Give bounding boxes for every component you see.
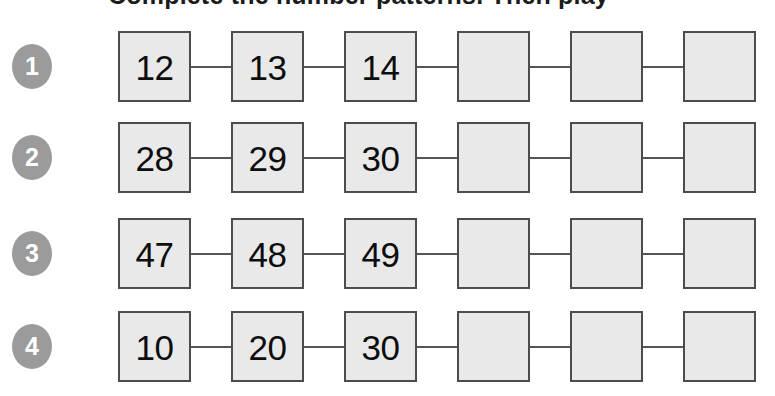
cell-connector — [304, 253, 344, 255]
cell-connector — [530, 253, 570, 255]
cell-connector — [643, 346, 683, 348]
cell-value: 47 — [120, 236, 189, 271]
sequence-row: 1 12 13 14 — [0, 31, 775, 103]
number-cell[interactable]: 10 — [118, 311, 191, 382]
number-cell-empty[interactable] — [683, 31, 756, 102]
number-cell-empty[interactable] — [570, 122, 643, 193]
cell-value: 29 — [233, 140, 302, 175]
row-number-label: 2 — [25, 145, 39, 170]
number-cell-empty[interactable] — [570, 218, 643, 289]
number-cell[interactable]: 29 — [231, 122, 304, 193]
cell-connector — [643, 66, 683, 68]
row-number-label: 1 — [25, 54, 39, 79]
number-cell[interactable]: 28 — [118, 122, 191, 193]
number-cell[interactable]: 48 — [231, 218, 304, 289]
cell-connector — [530, 346, 570, 348]
sequence-row: 3 47 48 49 — [0, 218, 775, 290]
cell-connector — [417, 66, 457, 68]
cell-value: 13 — [233, 49, 302, 84]
number-cell[interactable]: 13 — [231, 31, 304, 102]
cell-connector — [417, 253, 457, 255]
cell-value: 14 — [346, 49, 415, 84]
number-cell-empty[interactable] — [570, 311, 643, 382]
row-number-badge: 2 — [12, 135, 52, 180]
cell-value: 48 — [233, 236, 302, 271]
number-cell-empty[interactable] — [457, 122, 530, 193]
cell-value: 30 — [346, 140, 415, 175]
number-cell-empty[interactable] — [570, 31, 643, 102]
cell-connector — [191, 157, 231, 159]
cell-connector — [191, 66, 231, 68]
cell-value: 10 — [120, 329, 189, 364]
cell-connector — [191, 253, 231, 255]
number-cell[interactable]: 47 — [118, 218, 191, 289]
number-cell-empty[interactable] — [683, 218, 756, 289]
number-cell[interactable]: 49 — [344, 218, 417, 289]
cell-connector — [417, 346, 457, 348]
number-cell[interactable]: 14 — [344, 31, 417, 102]
cell-connector — [304, 346, 344, 348]
row-number-label: 4 — [25, 334, 39, 359]
number-cell[interactable]: 12 — [118, 31, 191, 102]
cell-connector — [530, 157, 570, 159]
row-number-badge: 1 — [12, 44, 52, 89]
cell-connector — [643, 157, 683, 159]
cell-connector — [530, 66, 570, 68]
cell-connector — [417, 157, 457, 159]
cell-value: 49 — [346, 236, 415, 271]
number-cell[interactable]: 30 — [344, 122, 417, 193]
cell-value: 12 — [120, 49, 189, 84]
cell-value: 30 — [346, 329, 415, 364]
number-cell-empty[interactable] — [683, 311, 756, 382]
number-cell[interactable]: 30 — [344, 311, 417, 382]
cell-connector — [643, 253, 683, 255]
row-number-badge: 4 — [12, 324, 52, 369]
sequence-row: 4 10 20 30 — [0, 311, 775, 383]
number-cell-empty[interactable] — [457, 31, 530, 102]
worksheet-page: Complete the number patterns. Then play … — [0, 0, 775, 396]
number-cell-empty[interactable] — [683, 122, 756, 193]
cell-value: 20 — [233, 329, 302, 364]
number-cell-empty[interactable] — [457, 311, 530, 382]
cell-connector — [304, 157, 344, 159]
row-number-label: 3 — [25, 241, 39, 266]
sequence-row: 2 28 29 30 — [0, 122, 775, 194]
number-cell-empty[interactable] — [457, 218, 530, 289]
row-number-badge: 3 — [12, 231, 52, 276]
cell-value: 28 — [120, 140, 189, 175]
cell-connector — [191, 346, 231, 348]
cell-connector — [304, 66, 344, 68]
sequence-rows-container: 1 12 13 14 2 — [0, 0, 775, 396]
number-cell[interactable]: 20 — [231, 311, 304, 382]
